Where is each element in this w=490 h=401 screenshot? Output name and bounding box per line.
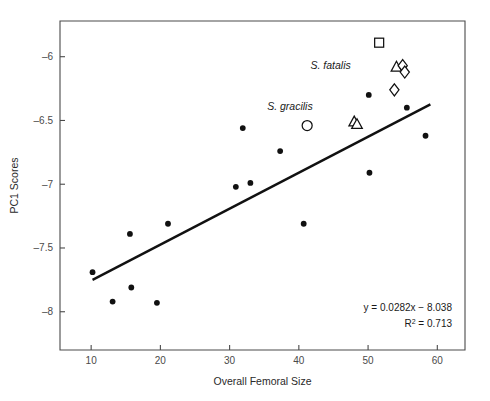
data-point-filled-circle [110,299,116,305]
y-tick-label: –6 [42,51,54,62]
x-tick-label: 20 [155,355,167,366]
data-point-filled-circle [127,231,133,237]
data-point-filled-circle [277,148,283,154]
x-tick-label: 50 [363,355,375,366]
x-axis-title: Overall Femoral Size [213,375,311,387]
data-point-filled-circle [301,221,307,227]
r-squared-value: R2 = 0.713 [404,318,452,330]
data-point-filled-circle [247,180,253,186]
y-tick-label: –7 [42,179,54,190]
data-point-filled-circle [423,133,429,139]
y-tick-label: –8 [42,306,54,317]
y-tick-label: –6.5 [34,115,54,126]
x-tick-label: 30 [224,355,236,366]
data-point-filled-circle [90,269,96,275]
y-axis-title: PC1 Scores [8,157,20,213]
regression-equation: y = 0.0282x − 8.038 [364,302,453,313]
data-point-filled-circle [240,125,246,131]
data-point-filled-circle [128,285,134,291]
data-point-filled-circle [154,300,160,306]
x-tick-label: 10 [86,355,98,366]
scatter-plot-figure: 102030405060–6–6.5–7–7.5–8Overall Femora… [0,0,490,401]
data-point-open-circle [302,121,312,131]
data-point-filled-circle [165,221,171,227]
data-point-open-square [375,38,384,47]
trend-line [93,104,431,279]
data-point-filled-circle [367,170,373,176]
data-point-open-diamond [390,84,399,96]
data-point-filled-circle [366,92,372,98]
annotation-s-fatalis: S. fatalis [310,59,351,71]
data-point-filled-circle [233,184,239,190]
plot-canvas: 102030405060–6–6.5–7–7.5–8Overall Femora… [0,0,490,401]
data-point-filled-circle [404,105,410,111]
y-tick-label: –7.5 [34,242,54,253]
annotation-s-gracilis: S. gracilis [267,100,313,112]
x-tick-label: 60 [432,355,444,366]
x-tick-label: 40 [293,355,305,366]
